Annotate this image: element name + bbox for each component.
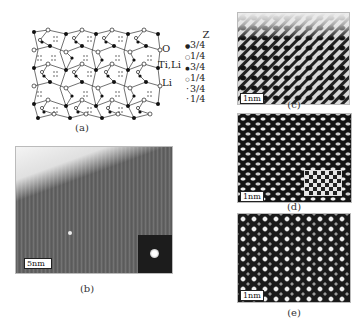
- scale-bar-d: 1nm: [240, 191, 264, 202]
- label-Ti-Li: Ti,Li: [158, 59, 181, 70]
- panel-d-hrtem-image: 1nm: [237, 113, 352, 203]
- scale-bar-c: 1nm: [240, 93, 264, 104]
- panel-a-structure-diagram: [30, 26, 164, 122]
- panel-e-hrtem-image: 1nm: [237, 213, 351, 303]
- caption-a: (a): [70, 122, 94, 133]
- legend-z: Z ●3/4 ○1/4 ●3/4 ○1/4 ·3/4 ·1/4: [185, 29, 221, 104]
- caption-d: (d): [282, 201, 306, 212]
- scale-bar-b: 5nm: [24, 258, 52, 269]
- caption-e: (e): [282, 307, 306, 318]
- bright-spot-icon: [68, 231, 72, 235]
- panel-b-tem-image: 5nm: [15, 146, 173, 274]
- fft-inset: [138, 235, 172, 273]
- diffraction-spot-icon: [150, 249, 159, 258]
- highlighted-region: [304, 170, 342, 196]
- legend-entry: ·1/4: [185, 94, 221, 104]
- cropped-text-strip: [0, 318, 364, 327]
- caption-c: (c): [282, 99, 306, 110]
- scale-bar-e: 1nm: [240, 290, 264, 301]
- label-O: O: [162, 43, 170, 54]
- panel-c-hrtem-image: 1nm: [237, 12, 350, 105]
- caption-b: (b): [75, 283, 99, 294]
- crystal-lattice-icon: [30, 26, 164, 122]
- label-Li: Li: [162, 77, 172, 88]
